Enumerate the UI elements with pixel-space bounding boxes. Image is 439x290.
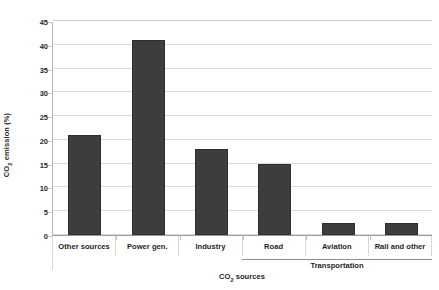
category-label-road: Road [242, 236, 305, 256]
x-axis-title: CO2 sources [52, 272, 432, 283]
y-tick-label-5: 5 [22, 208, 48, 217]
y-tick-label-20: 20 [22, 136, 48, 145]
y-axis-tick-labels: 051015202530354045 [22, 22, 48, 236]
bar-power-gen [132, 40, 165, 235]
y-axis-title-subscript: 2 [7, 163, 13, 166]
y-tick-label-0: 0 [22, 232, 48, 241]
bar-industry [195, 149, 228, 235]
bar-rail-and-other [385, 223, 418, 235]
category-box-left-edge [52, 236, 53, 270]
category-label-aviation: Aviation [305, 236, 368, 256]
bar-series [53, 22, 432, 235]
y-tick-label-15: 15 [22, 160, 48, 169]
category-label-industry: Industry [178, 236, 241, 256]
x-axis-title-pre: CO [219, 272, 230, 281]
y-tick-label-35: 35 [22, 65, 48, 74]
group-bracket-line [242, 259, 432, 260]
bar-aviation [322, 223, 355, 235]
bar-road [258, 164, 291, 235]
plot-area [52, 22, 432, 236]
y-tick-label-30: 30 [22, 89, 48, 98]
group-label-transportation: Transportation [242, 261, 432, 270]
bar-other-sources [68, 135, 101, 235]
y-tick-label-45: 45 [22, 18, 48, 27]
category-label-power-gen: Power gen. [115, 236, 178, 256]
y-axis-title-post: emission (%) [2, 113, 11, 163]
category-label-other-sources: Other sources [52, 236, 115, 256]
category-label-rail-and-other: Rail and other [368, 236, 431, 256]
y-axis-title: CO2 emission (%) [2, 80, 13, 210]
y-tick-label-40: 40 [22, 41, 48, 50]
x-axis-title-post: sources [234, 272, 265, 281]
co2-emission-bar-chart: CO2 emission (%) 051015202530354045 Othe… [0, 0, 439, 290]
y-tick-label-25: 25 [22, 113, 48, 122]
y-axis-title-pre: CO [2, 166, 11, 177]
gridline-45 [53, 20, 432, 21]
y-tick-label-10: 10 [22, 184, 48, 193]
x-axis-category-labels: Other sourcesPower gen.IndustryRoadAviat… [52, 236, 432, 256]
